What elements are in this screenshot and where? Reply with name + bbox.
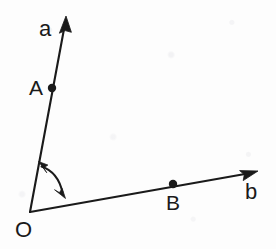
point-b-label: B [166, 192, 180, 213]
angle-arc-arrowhead-toward-a [39, 162, 48, 173]
ray-b [30, 171, 258, 212]
ray-a-arrowhead [59, 16, 71, 33]
ray-a-label: a [39, 18, 51, 40]
point-a-label: A [29, 77, 43, 98]
point-a-dot [48, 84, 56, 92]
angle-arc [39, 162, 66, 199]
ray-b-label: b [245, 181, 257, 203]
ray-a [30, 16, 71, 212]
angle-arc-arrowhead-toward-b [55, 188, 66, 198]
angle-diagram-figure: a A B b O [0, 0, 276, 249]
vertex-label: O [15, 219, 32, 241]
point-b-dot [169, 180, 177, 188]
